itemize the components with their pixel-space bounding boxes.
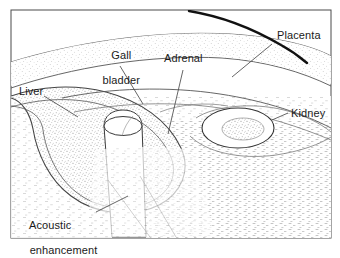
label-liver: Liver: [19, 85, 43, 98]
label-acoustic-enhancement-line2: enhancement: [30, 244, 98, 256]
label-gall-bladder: Gall bladder: [84, 36, 146, 99]
label-acoustic-enhancement: Acoustic enhancement: [17, 206, 97, 258]
label-gall-bladder-line2: bladder: [103, 74, 140, 86]
label-acoustic-enhancement-line1: Acoustic: [29, 219, 71, 231]
label-gall-bladder-line1: Gall: [111, 49, 131, 61]
kidney-sinus: [222, 118, 264, 140]
label-adrenal: Adrenal: [164, 52, 203, 65]
label-kidney: Kidney: [291, 107, 325, 120]
label-placenta: Placenta: [277, 29, 321, 42]
